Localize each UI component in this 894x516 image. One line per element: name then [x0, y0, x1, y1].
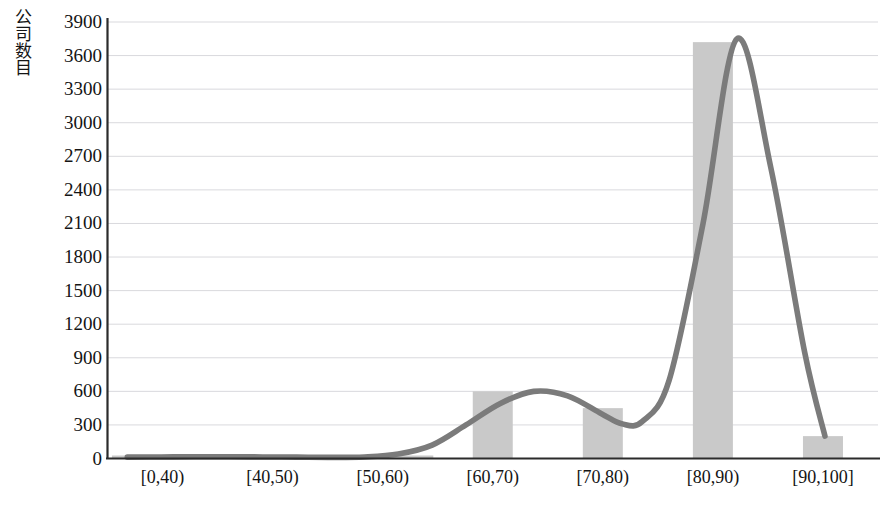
x-axis-tick-label: [80,90) — [687, 468, 740, 486]
chart-container: 公司数目 39003600330030002700240021001800150… — [0, 0, 894, 516]
x-axis-tick-label: [90,100] — [792, 468, 854, 486]
x-axis-tick-label: [0,40) — [141, 468, 185, 486]
x-axis-tick-label-group: [0,40)[40,50)[50,60)[60,70)[70,80)[80,90… — [0, 0, 894, 516]
x-axis-tick-label: [70,80) — [577, 468, 630, 486]
x-axis-tick-label: [40,50) — [246, 468, 299, 486]
x-axis-tick-label: [50,60) — [356, 468, 409, 486]
x-axis-tick-label: [60,70) — [467, 468, 520, 486]
